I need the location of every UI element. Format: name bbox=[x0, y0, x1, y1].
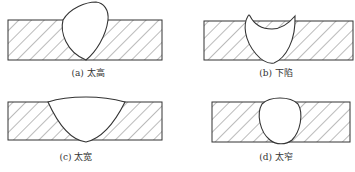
caption-a: (a) 太高 bbox=[71, 66, 104, 79]
caption-c: (c) 太宽 bbox=[60, 150, 93, 163]
caption-d: (d) 太窄 bbox=[259, 150, 293, 163]
panel-a-too-high bbox=[8, 2, 162, 60]
weld-defects-diagram bbox=[0, 0, 355, 172]
panel-b-sunken bbox=[204, 15, 353, 63]
caption-b: (b) 下陷 bbox=[259, 66, 293, 79]
panel-c-too-wide bbox=[8, 97, 162, 142]
panel-d-too-narrow bbox=[212, 98, 350, 144]
